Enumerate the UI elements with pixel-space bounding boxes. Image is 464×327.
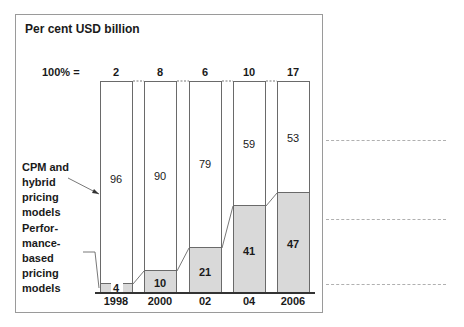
value-cpm-2002: 79 — [188, 158, 222, 170]
value-perf-2004: 41 — [232, 245, 266, 257]
value-perf-2006: 47 — [276, 238, 310, 250]
legend-perf-line: based — [22, 251, 61, 266]
x-label-2004: 04 — [229, 295, 269, 307]
value-cpm-2006: 53 — [276, 132, 310, 144]
value-cpm-2004: 59 — [232, 138, 266, 150]
legend-performance: Perfor- mance- based pricing models — [22, 221, 61, 296]
legend-perf-line: Perfor- — [22, 221, 61, 236]
legend-cpm: CPM and hybrid pricing models — [22, 160, 69, 220]
value-perf-2002: 21 — [188, 266, 222, 278]
legend-cpm-line: CPM and — [22, 160, 69, 175]
legend-perf-line: pricing — [22, 266, 61, 281]
legend-cpm-line: hybrid — [22, 175, 69, 190]
x-label-2002: 02 — [185, 295, 225, 307]
x-label-2000: 2000 — [140, 295, 180, 307]
connector-lines — [0, 0, 464, 327]
legend-cpm-line: models — [22, 205, 69, 220]
value-cpm-2000: 90 — [143, 170, 177, 182]
x-label-2006: 2006 — [273, 295, 313, 307]
legend-cpm-line: pricing — [22, 190, 69, 205]
guide-dash-line — [326, 219, 446, 220]
legend-perf-line: mance- — [22, 236, 61, 251]
x-label-1998: 1998 — [96, 295, 136, 307]
legend-perf-line: models — [22, 281, 61, 296]
value-perf-2000: 10 — [143, 277, 177, 289]
guide-dash-line — [326, 284, 446, 285]
x-axis-baseline — [95, 292, 315, 294]
value-cpm-1998: 96 — [99, 173, 133, 185]
guide-dash-line — [326, 140, 446, 141]
